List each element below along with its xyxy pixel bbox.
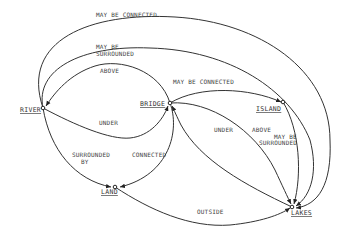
edge-bridge-land-connected: [120, 103, 173, 187]
node-river-label: RIVER: [20, 106, 41, 114]
node-river-point: [41, 106, 45, 110]
edge-label-connected-land: CONNECTED: [132, 151, 166, 158]
edge-island-lakes-may-be-surrounded: [283, 102, 299, 204]
node-lakes-label: LAKES: [291, 209, 312, 217]
node-bridge-label: BRIDGE: [140, 100, 165, 108]
node-island-point: [281, 100, 285, 104]
edge-label-under-lakes: UNDER: [214, 126, 233, 133]
edge-label-above-lakes: ABOVE: [252, 126, 271, 133]
edge-label-surrounded: SURROUNDED: [96, 50, 134, 57]
edge-bridge-lakes-above: [170, 103, 291, 204]
edge-label-may-be: MAY BE: [96, 43, 119, 50]
edge-label-surrounded-land: SURROUNDED: [72, 151, 110, 158]
edge-label-may-be-connected-island: MAY BE CONNECTED: [173, 78, 234, 85]
edge-label-outside: OUTSIDE: [197, 208, 224, 215]
edge-label-surrounded-island: SURROUNDED: [259, 139, 297, 146]
edge-bridge-island-may-be-connected: [170, 90, 281, 103]
semantic-network-diagram: RIVER BRIDGE ISLAND LAND LAKES MAY BE CO…: [0, 0, 349, 237]
edge-river-lakes-may-be-connected: [39, 16, 331, 208]
edge-label-may-be-connected-outer: MAY BE CONNECTED: [96, 11, 157, 18]
edge-label-above-river: ABOVE: [100, 67, 119, 74]
edge-label-under-river: UNDER: [99, 119, 118, 126]
edge-label-by-land: BY: [81, 158, 89, 165]
node-land-label: LAND: [101, 188, 118, 196]
node-bridge-point: [168, 101, 172, 105]
node-island-label: ISLAND: [256, 105, 281, 113]
